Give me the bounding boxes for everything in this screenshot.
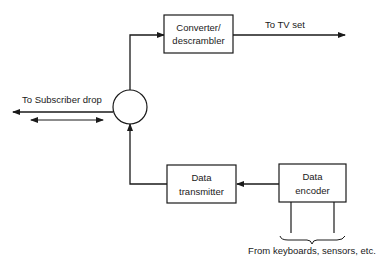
converter-descrambler-block: Converter/ descrambler xyxy=(164,15,233,53)
block-diagram: Converter/ descrambler To TV set To Subs… xyxy=(0,0,384,260)
converter-label-line2: descrambler xyxy=(172,35,224,46)
input-brace xyxy=(280,236,345,244)
encoder-label-line1: Data xyxy=(302,171,323,182)
splitter-to-converter-line xyxy=(130,35,164,91)
subscriber-drop-label: To Subscriber drop xyxy=(22,94,102,105)
transmitter-label-line1: Data xyxy=(191,172,212,183)
tv-set-label: To TV set xyxy=(265,19,305,30)
data-transmitter-block: Data transmitter xyxy=(167,165,236,203)
transmitter-label-line2: transmitter xyxy=(179,186,224,197)
converter-label-line1: Converter/ xyxy=(176,22,221,33)
inputs-label: From keyboards, sensors, etc. xyxy=(248,245,376,256)
transmitter-to-splitter-line xyxy=(130,124,167,184)
encoder-label-line2: encoder xyxy=(295,185,329,196)
splitter-circle xyxy=(113,90,147,124)
data-encoder-block: Data encoder xyxy=(279,164,346,202)
